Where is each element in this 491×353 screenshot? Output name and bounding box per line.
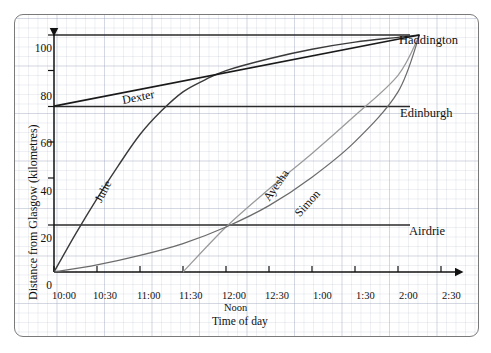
chart-plot [0, 0, 477, 339]
x-tick-label-1030: 10:30 [93, 290, 117, 301]
city-label-edinburgh: Edinburgh [400, 106, 453, 121]
x-axis-title: Time of day [212, 315, 268, 327]
y-tick-label-100: 100 [24, 42, 52, 54]
x-tick-label-130: 1:30 [356, 290, 375, 301]
x-tick-label-1000: 10:00 [52, 290, 76, 301]
y-axis-title: Distance from Glasgow (kilometres) [26, 124, 41, 300]
city-label-haddington: Haddington [399, 33, 458, 48]
y-tick-label-80: 80 [24, 90, 52, 102]
x-tick-marks [54, 266, 441, 272]
x-tick-label-1200: 12:00 [222, 290, 246, 301]
series-curve-dexter [54, 35, 420, 106]
x-tick-label-1230: 12:30 [265, 290, 289, 301]
x-tick-label-100: 1:00 [313, 290, 332, 301]
x-tick-label-1100: 11:00 [137, 290, 161, 301]
x-tick-label-noon: Noon [224, 302, 247, 313]
x-tick-label-200: 2:00 [399, 290, 418, 301]
city-label-airdrie: Airdrie [409, 224, 445, 239]
x-tick-label-1130: 11:30 [179, 290, 203, 301]
series-curve-simon [183, 35, 420, 272]
x-tick-label-230: 2:30 [442, 290, 461, 301]
